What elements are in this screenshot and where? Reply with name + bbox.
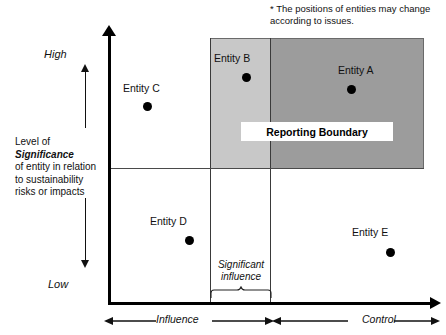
significant-influence-brace-icon xyxy=(210,286,272,299)
y-axis-low-label: Low xyxy=(48,278,68,290)
y-caption-significance: Significance xyxy=(15,149,110,162)
y-caption-line-3: of entity in relation xyxy=(15,161,110,174)
reporting-boundary-label: Reporting Boundary xyxy=(241,122,393,141)
significant-influence-label: Significant influence xyxy=(214,259,268,282)
entity-c-label: Entity C xyxy=(123,82,160,94)
entity-d-dot xyxy=(185,236,194,245)
entity-b-dot xyxy=(242,73,251,82)
low-arrow-head-icon xyxy=(81,260,89,268)
x-axis-line xyxy=(108,302,435,305)
influence-control-divider-line xyxy=(270,38,271,303)
y-caption-line-4: to sustainability xyxy=(15,174,110,187)
entity-e-dot xyxy=(386,248,395,257)
entity-b-label: Entity B xyxy=(214,52,250,64)
high-arrow-head-icon xyxy=(81,64,89,72)
y-caption-line-1: Level of xyxy=(15,136,110,149)
significance-threshold-line xyxy=(110,168,424,169)
entity-significance-matrix-diagram: * The positions of entities may change a… xyxy=(0,0,446,335)
entity-a-label: Entity A xyxy=(338,64,374,76)
x-axis-arrow-icon xyxy=(430,297,441,309)
control-shaded-region xyxy=(270,38,424,169)
note-text: * The positions of entities may change a… xyxy=(270,3,446,26)
y-caption-line-5: risks or impacts xyxy=(15,186,110,199)
y-axis-caption: Level of Significance of entity in relat… xyxy=(15,136,110,199)
high-arrow-shaft-icon xyxy=(85,70,86,128)
y-axis-arrow-icon xyxy=(102,25,116,36)
entity-e-label: Entity E xyxy=(352,226,388,238)
entity-d-label: Entity D xyxy=(150,215,187,227)
low-arrow-shaft-icon xyxy=(85,198,86,262)
significant-influence-left-boundary-line xyxy=(210,38,211,303)
x-axis-range-arrows-icon xyxy=(104,312,440,332)
y-axis-high-label: High xyxy=(44,48,67,60)
entity-a-dot xyxy=(347,85,356,94)
entity-c-dot xyxy=(143,102,152,111)
